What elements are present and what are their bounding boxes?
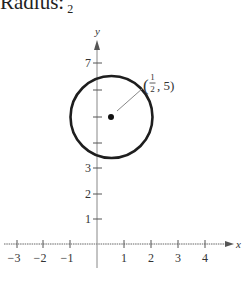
leader-line <box>117 88 143 111</box>
y-axis-arrow-icon <box>94 40 100 50</box>
svg-text:2: 2 <box>85 187 91 201</box>
svg-text:3: 3 <box>175 251 181 265</box>
x-tick-labels: −3 −2 −1 1 2 3 4 <box>8 251 208 265</box>
svg-text:3: 3 <box>85 161 91 175</box>
y-axis: y <box>94 25 100 268</box>
x-axis-arrow-icon <box>225 241 234 247</box>
circle-graph: x −3 −2 −1 1 2 3 4 y 7 3 2 1 <box>0 0 242 281</box>
center-point <box>108 114 114 120</box>
svg-text:2: 2 <box>148 251 154 265</box>
svg-text:1: 1 <box>150 72 155 82</box>
y-axis-label: y <box>94 25 100 37</box>
svg-text:1: 1 <box>85 212 91 226</box>
svg-text:7: 7 <box>85 56 91 70</box>
x-axis-label: x <box>235 238 241 250</box>
center-point-label: ( 1 2 , 5) <box>143 72 174 95</box>
svg-text:−2: −2 <box>34 251 47 265</box>
svg-text:4: 4 <box>202 251 208 265</box>
svg-text:−3: −3 <box>8 251 21 265</box>
svg-text:1: 1 <box>121 251 127 265</box>
svg-text:(: ( <box>143 76 149 95</box>
svg-text:, 5): , 5) <box>157 78 174 93</box>
svg-text:2: 2 <box>150 84 155 94</box>
svg-text:−1: −1 <box>61 251 74 265</box>
